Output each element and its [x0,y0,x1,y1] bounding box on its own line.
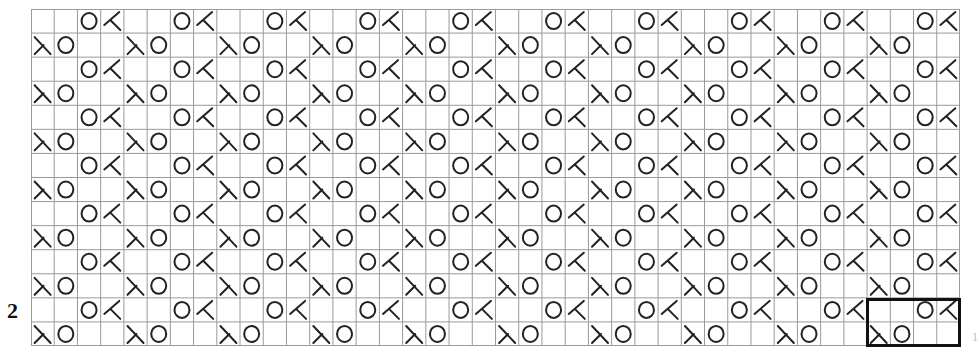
left-decrease-symbol [662,108,678,126]
yarn-over-symbol [894,133,909,149]
right-decrease-symbol [499,278,515,295]
left-decrease-symbol [197,156,213,174]
yarn-over-symbol [267,206,282,222]
yarn-over-symbol [337,230,352,246]
right-decrease-symbol [592,85,608,102]
yarn-over-symbol [430,37,445,53]
left-decrease-symbol [569,205,585,223]
left-decrease-symbol [940,301,956,319]
yarn-over-symbol [82,206,97,222]
yarn-over-symbol [709,278,724,294]
yarn-over-symbol [616,326,631,342]
right-decrease-symbol [592,230,608,247]
yarn-over-symbol [337,85,352,101]
yarn-over-symbol [894,182,909,198]
yarn-over-symbol [523,326,538,342]
yarn-over-symbol [639,109,654,125]
yarn-over-symbol [732,61,747,77]
right-decrease-symbol [406,182,422,199]
yarn-over-symbol [174,13,189,29]
left-decrease-symbol [476,205,492,223]
left-decrease-symbol [847,108,863,126]
right-decrease-symbol [778,133,794,150]
right-decrease-symbol [313,133,329,150]
left-decrease-symbol [940,12,956,30]
yarn-over-symbol [244,278,259,294]
right-decrease-symbol [499,182,515,199]
left-decrease-symbol [940,156,956,174]
yarn-over-symbol [174,206,189,222]
right-decrease-symbol [220,326,236,343]
yarn-over-symbol [802,37,817,53]
right-decrease-symbol [128,278,144,295]
yarn-over-symbol [546,61,561,77]
left-decrease-symbol [662,60,678,78]
left-decrease-symbol [940,108,956,126]
right-decrease-symbol [685,230,701,247]
yarn-over-symbol [616,278,631,294]
left-decrease-symbol [755,12,771,30]
left-decrease-symbol [290,156,306,174]
yarn-over-symbol [802,278,817,294]
yarn-over-symbol [267,13,282,29]
right-decrease-symbol [35,37,51,54]
yarn-over-symbol [546,302,561,318]
right-decrease-symbol [35,230,51,247]
yarn-over-symbol [58,230,73,246]
yarn-over-symbol [732,13,747,29]
right-decrease-symbol [685,133,701,150]
right-decrease-symbol [685,182,701,199]
yarn-over-symbol [58,37,73,53]
yarn-over-symbol [453,302,468,318]
yarn-over-symbol [894,37,909,53]
yarn-over-symbol [802,85,817,101]
left-decrease-symbol [940,205,956,223]
right-decrease-symbol [871,326,887,343]
right-decrease-symbol [220,230,236,247]
yarn-over-symbol [360,302,375,318]
right-decrease-symbol [128,85,144,102]
left-decrease-symbol [662,156,678,174]
yarn-over-symbol [523,230,538,246]
right-decrease-symbol [35,182,51,199]
left-decrease-symbol [662,253,678,271]
yarn-over-symbol [639,61,654,77]
yarn-over-symbol [802,133,817,149]
right-decrease-symbol [685,326,701,343]
right-decrease-symbol [128,37,144,54]
yarn-over-symbol [453,157,468,173]
yarn-over-symbol [82,109,97,125]
left-decrease-symbol [197,205,213,223]
left-decrease-symbol [755,108,771,126]
yarn-over-symbol [430,182,445,198]
yarn-over-symbol [151,37,166,53]
yarn-over-symbol [151,85,166,101]
yarn-over-symbol [82,61,97,77]
yarn-over-symbol [267,302,282,318]
yarn-over-symbol [453,206,468,222]
left-decrease-symbol [383,301,399,319]
yarn-over-symbol [360,254,375,270]
yarn-over-symbol [244,326,259,342]
right-decrease-symbol [592,278,608,295]
yarn-over-symbol [151,278,166,294]
yarn-over-symbol [174,61,189,77]
right-decrease-symbol [685,37,701,54]
yarn-over-symbol [918,254,933,270]
yarn-over-symbol [174,302,189,318]
yarn-over-symbol [546,13,561,29]
right-decrease-symbol [871,133,887,150]
yarn-over-symbol [894,326,909,342]
right-decrease-symbol [592,326,608,343]
yarn-over-symbol [825,13,840,29]
left-decrease-symbol [847,253,863,271]
left-decrease-symbol [847,12,863,30]
yarn-over-symbol [337,182,352,198]
yarn-over-symbol [802,182,817,198]
left-decrease-symbol [383,12,399,30]
yarn-over-symbol [825,302,840,318]
yarn-over-symbol [430,85,445,101]
yarn-over-symbol [453,13,468,29]
left-decrease-symbol [104,12,120,30]
left-decrease-symbol [104,156,120,174]
